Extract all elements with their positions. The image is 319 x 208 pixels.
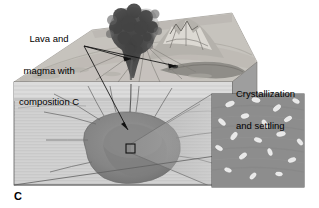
label-crystallization-and-settling: Crystallization and settling	[236, 68, 295, 152]
label-crystal-line1: Crystallization	[236, 89, 295, 100]
figure-panel-c: Lava and magma with composition C Crysta…	[0, 0, 319, 208]
label-crystal-line2: and settling	[236, 121, 295, 132]
label-lava-and-magma: Lava and magma with composition C	[19, 13, 79, 129]
panel-letter: C	[14, 190, 22, 202]
label-lava-line1: Lava and	[19, 34, 79, 45]
label-lava-line2: magma with	[19, 66, 79, 77]
label-lava-line3: composition C	[19, 97, 79, 108]
